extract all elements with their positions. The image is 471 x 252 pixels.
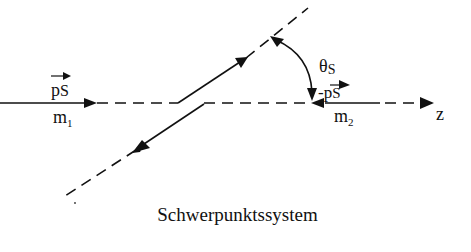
scattering-angle-arc xyxy=(270,36,317,101)
svg-text:-pS: -pS xyxy=(318,83,341,102)
z-axis-arrow-icon xyxy=(420,97,434,109)
arrow-right-icon xyxy=(84,98,97,108)
figure-caption: Schwerpunktssystem xyxy=(0,204,471,226)
arrow-up-right-icon xyxy=(235,57,248,68)
svg-text:pS: pS xyxy=(51,80,69,100)
outgoing-particle-1-track xyxy=(178,8,308,103)
outgoing-particle-2-track xyxy=(62,104,204,204)
particle-2-momentum-label: -pS xyxy=(318,80,350,102)
particle-1-mass-label: m1 xyxy=(53,107,73,129)
particle-1-momentum-label: pS xyxy=(51,72,71,100)
angle-label: θS xyxy=(319,56,335,77)
particle-2-mass-label: m2 xyxy=(334,106,354,128)
incoming-particle-1-track xyxy=(0,98,178,108)
z-axis-label: z xyxy=(436,104,444,124)
